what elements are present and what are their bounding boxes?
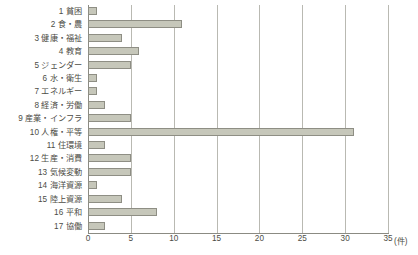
category-label: 10 人権・平等 <box>0 126 85 139</box>
category-label: 4 教育 <box>0 45 85 58</box>
category-label: 17 協働 <box>0 220 85 233</box>
bar <box>88 128 354 136</box>
gridline <box>388 5 389 233</box>
bar-row <box>88 85 388 98</box>
horizontal-bar-chart: 1 貧困 2 食・農 3 健康・福祉 4 教育 5 ジェンダー 6 水・衛生 7… <box>0 0 418 255</box>
category-label: 2 食・農 <box>0 18 85 31</box>
category-label: 8 経済・労働 <box>0 99 85 112</box>
bar-row <box>88 179 388 192</box>
bar <box>88 222 105 230</box>
bar <box>88 61 131 69</box>
bar <box>88 168 131 176</box>
bar-row <box>88 99 388 112</box>
bar <box>88 181 97 189</box>
bar-row <box>88 45 388 58</box>
category-label: 14 海洋資源 <box>0 179 85 192</box>
bar <box>88 114 131 122</box>
category-label: 16 平和 <box>0 206 85 219</box>
category-label: 13 気候変動 <box>0 166 85 179</box>
category-label: 1 貧困 <box>0 5 85 18</box>
x-tick-label: 30 <box>341 234 350 243</box>
bar-row <box>88 72 388 85</box>
x-tick-label: 25 <box>298 234 307 243</box>
category-label: 5 ジェンダー <box>0 59 85 72</box>
category-label: 11 住環境 <box>0 139 85 152</box>
bar-series <box>88 5 388 233</box>
bar-row <box>88 220 388 233</box>
bar <box>88 87 97 95</box>
bar <box>88 195 122 203</box>
x-tick-label: 35 <box>383 234 392 243</box>
bar-row <box>88 112 388 125</box>
x-tick-label: 15 <box>212 234 221 243</box>
bar <box>88 20 182 28</box>
bar <box>88 34 122 42</box>
bar-row <box>88 152 388 165</box>
bar-row <box>88 59 388 72</box>
bar <box>88 154 131 162</box>
category-label: 12 生産・消費 <box>0 152 85 165</box>
x-tick-label: 0 <box>86 234 91 243</box>
bar-row <box>88 193 388 206</box>
category-label: 15 陸上資源 <box>0 193 85 206</box>
plot-area <box>88 5 388 233</box>
x-axis-tick-labels: 05101520253035(件) <box>88 234 388 254</box>
bar-row <box>88 139 388 152</box>
bar <box>88 74 97 82</box>
bar-row <box>88 5 388 18</box>
x-axis-unit-label: (件) <box>394 234 407 246</box>
bar-row <box>88 206 388 219</box>
category-axis-labels: 1 貧困 2 食・農 3 健康・福祉 4 教育 5 ジェンダー 6 水・衛生 7… <box>0 5 85 233</box>
bar <box>88 208 157 216</box>
x-tick-label: 10 <box>169 234 178 243</box>
bar <box>88 47 139 55</box>
x-tick-label: 20 <box>255 234 264 243</box>
bar-row <box>88 166 388 179</box>
bar <box>88 101 105 109</box>
bar <box>88 141 105 149</box>
bar-row <box>88 32 388 45</box>
bar <box>88 7 97 15</box>
category-label: 3 健康・福祉 <box>0 32 85 45</box>
bar-row <box>88 18 388 31</box>
category-label: 9 産業・インフラ <box>0 112 85 125</box>
category-label: 6 水・衛生 <box>0 72 85 85</box>
category-label: 7 エネルギー <box>0 85 85 98</box>
bar-row <box>88 126 388 139</box>
x-tick-label: 5 <box>129 234 134 243</box>
